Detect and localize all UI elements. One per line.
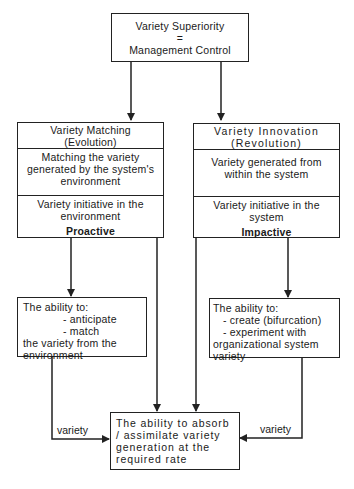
right-ability-item: - experiment with [223,326,336,338]
variety-matching-subtitle: (Evolution) [18,136,163,148]
absorb-variety-box: The ability to absorb / assimilate varie… [110,412,240,470]
variety-matching-description: Matching the variety generated by the sy… [18,149,163,196]
variety-innovation-subtitle: (Revolution) [194,137,339,149]
top-box-line1: Variety Superiority [112,20,248,32]
right-ability-intro: The ability to: [213,302,336,314]
left-ability-intro: The ability to: [23,301,141,313]
variety-innovation-initiative-text: Variety initiative in the system [204,199,329,223]
variety-innovation-initiative: Variety initiative in the system Impacti… [194,197,339,238]
variety-matching-title: Variety Matching [18,124,163,136]
variety-innovation-description: Variety generated from within the system [194,150,339,197]
variety-innovation-title: Variety Innovation [194,125,339,137]
proactive-label: Proactive [28,225,153,237]
left-ability-outro: the variety from the environment [23,337,141,361]
variety-matching-header: Variety Matching (Evolution) [18,123,163,149]
right-variety-edge-label: variety [260,423,291,435]
left-ability-list: - anticipate - match [23,313,141,337]
top-box-line2: = [112,32,248,44]
variety-matching-description-text: Matching the variety generated by the sy… [27,151,154,187]
left-variety-edge-label: variety [57,424,88,436]
absorb-variety-text: The ability to absorb / assimilate varie… [116,417,229,465]
left-ability-item: - match [63,325,141,337]
impactive-label: Impactive [204,226,329,238]
variety-innovation-description-text: Variety generated from within the system [211,156,321,180]
variety-matching-initiative: Variety initiative in the environment Pr… [18,196,163,237]
right-ability-outro: organizational system variety [213,338,336,362]
right-ability-list: - create (bifurcation) - experiment with [213,314,336,338]
left-ability-box: The ability to: - anticipate - match the… [17,297,147,357]
right-ability-item: - create (bifurcation) [223,314,336,326]
variety-innovation-box: Variety Innovation (Revolution) Variety … [193,123,340,238]
variety-innovation-header: Variety Innovation (Revolution) [194,124,339,150]
management-control-box: Variety Superiority = Management Control [111,13,249,62]
variety-matching-box: Variety Matching (Evolution) Matching th… [17,122,164,238]
top-box-line3: Management Control [112,44,248,56]
variety-matching-initiative-text: Variety initiative in the environment [28,198,153,222]
left-ability-item: - anticipate [63,313,141,325]
right-ability-box: The ability to: - create (bifurcation) -… [209,298,340,358]
